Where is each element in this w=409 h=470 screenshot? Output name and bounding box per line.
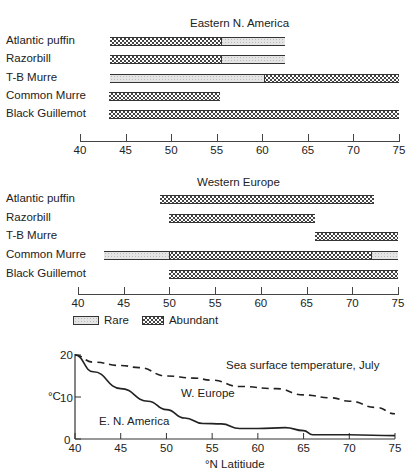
bar-segment-abundant [264,75,399,82]
range-bar [110,74,399,83]
range-bar [110,37,285,46]
bar-segment-rare [221,38,285,45]
species-label: T-B Murre [6,229,57,241]
species-label: Black Guillemot [6,267,86,279]
range-bar [110,55,285,64]
x-tick-label: 60 [254,297,267,309]
x-tick-label: 40 [69,442,82,454]
species-label: Razorbill [6,211,51,223]
x-tick [261,287,262,295]
x-tick [78,287,79,295]
x-axis [80,141,399,142]
x-axis-label: °N Latitiude [205,458,265,470]
bar-segment-abundant [169,271,398,278]
range-bar [160,195,374,204]
range-bar [315,232,398,241]
bar-segment-abundant [315,233,398,240]
x-tick-label: 70 [343,442,356,454]
y-axis-label: °C [48,390,61,402]
legend-label-abundant: Abundant [169,314,218,326]
bar-segment-rare [371,252,398,259]
bar-segment-abundant [169,215,314,222]
segment-divider [221,38,222,45]
segment-divider [371,252,372,259]
range-bar [104,251,398,260]
y-tick-label: 20 [60,349,73,361]
x-tick [353,134,354,142]
sst-line-chart: Sea surface temperature, July °C °N Lati… [0,340,409,470]
bar-segment-rare [110,75,264,82]
x-tick [126,134,127,142]
x-tick [307,287,308,295]
x-tick [124,287,125,295]
x-tick-label: 65 [297,442,310,454]
x-tick-label: 50 [163,297,176,309]
x-tick [352,287,353,295]
y-tick-label: 10 [60,392,73,404]
bar-segment-rare [104,252,169,259]
bar-segment-abundant [109,93,220,100]
x-tick-label: 55 [209,297,222,309]
panel-title: Eastern N. America [190,17,289,29]
range-bar [169,214,314,223]
segment-divider [264,75,265,82]
x-tick-label: 45 [117,297,130,309]
range-bar [109,110,399,119]
x-tick [399,134,400,142]
x-tick [80,134,81,142]
range-bar [109,92,220,101]
species-label: Razorbill [6,52,51,64]
species-label: Common Murre [6,89,86,101]
x-tick [398,287,399,295]
x-tick-label: 65 [300,297,313,309]
species-label: T-B Murre [6,71,57,83]
x-tick-label: 55 [206,442,219,454]
x-tick [217,134,218,142]
x-tick [171,134,172,142]
panel-title: Western Europe [197,176,280,188]
species-label: Black Guillemot [6,107,86,119]
x-tick-label: 75 [392,297,405,309]
legend-swatch-abundant [142,316,164,325]
line-title: Sea surface temperature, July [226,359,380,371]
x-tick-label: 55 [210,144,223,156]
x-tick-label: 40 [72,297,85,309]
x-tick-label: 70 [346,297,359,309]
segment-divider [221,56,222,63]
x-tick-label: 50 [160,442,173,454]
x-tick-label: 45 [119,144,132,156]
legend-label-rare: Rare [104,314,129,326]
x-tick-label: 60 [256,144,269,156]
legend-swatch-rare [73,316,99,325]
x-tick-label: 60 [251,442,264,454]
bar-segment-abundant [110,56,221,63]
species-label: Common Murre [6,248,86,260]
series-label-ena: E. N. America [99,415,170,427]
bar-segment-abundant [169,252,371,259]
panel-western-europe: Western Europe Atlantic puffin Razorbill… [0,165,409,335]
species-label: Atlantic puffin [6,192,75,204]
species-label: Atlantic puffin [6,34,75,46]
legend: Rare Abundant [73,314,218,326]
x-tick-label: 40 [74,144,87,156]
x-axis [78,294,398,295]
x-tick [169,287,170,295]
x-tick-label: 75 [393,144,406,156]
bar-segment-abundant [110,38,221,45]
x-tick [262,134,263,142]
x-tick-label: 75 [389,442,402,454]
bar-segment-abundant [109,111,399,118]
x-tick [308,134,309,142]
x-tick [215,287,216,295]
x-tick-label: 50 [165,144,178,156]
bar-segment-abundant [160,196,374,203]
panel-eastern-na: Eastern N. America Atlantic puffin Razor… [0,0,409,160]
series-label-weurope: W. Europe [181,387,235,399]
bar-segment-rare [221,56,285,63]
x-tick-label: 45 [114,442,127,454]
range-bar [169,270,398,279]
x-tick-label: 70 [347,144,360,156]
segment-divider [169,252,170,259]
x-tick-label: 65 [301,144,314,156]
